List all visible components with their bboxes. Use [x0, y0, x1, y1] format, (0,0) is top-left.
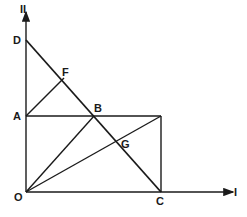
axis-label-I: I [234, 186, 237, 198]
point-label-G: G [121, 138, 130, 150]
line-OB [26, 116, 94, 192]
point-label-F: F [62, 66, 69, 78]
point-label-B: B [94, 102, 102, 114]
line-O-to-corner [26, 116, 161, 192]
point-label-D: D [13, 34, 21, 46]
point-label-O: O [14, 191, 23, 203]
point-label-A: A [13, 110, 21, 122]
axis-label-II: II [20, 3, 26, 15]
line-AF [26, 78, 64, 116]
point-label-C: C [156, 195, 164, 207]
geometry-diagram: II I D A O F B G C [0, 0, 247, 217]
